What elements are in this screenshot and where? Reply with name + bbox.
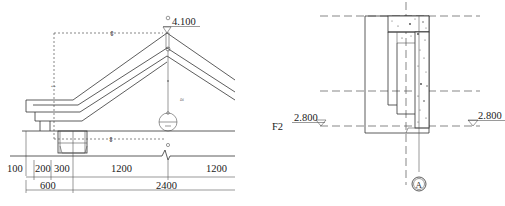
roof-outer-line — [26, 33, 235, 100]
dim-300: 300 — [54, 163, 70, 174]
dim-600: 600 — [40, 180, 56, 191]
light-fixture-icon — [159, 113, 177, 131]
dim-200: 200 — [35, 163, 51, 174]
dim-marker-top: ⇕ — [109, 30, 115, 38]
right-elevation-marker: 2.800 — [468, 110, 505, 126]
dim-marker-bottom: ⇕ — [108, 136, 114, 144]
roof-section-detail: 4.100 ⇕ ⇔ ≈ — [7, 16, 235, 193]
ground-line — [10, 150, 235, 160]
dim-1200-a: 1200 — [111, 163, 132, 174]
floor-label: F2 — [272, 121, 283, 132]
elevation-triangle-icon — [468, 120, 478, 126]
ridge-elevation-marker: 4.100 — [163, 16, 200, 33]
inner-panel-1 — [388, 32, 397, 105]
left-elevation-label: 2.800 — [294, 112, 318, 123]
drawing-canvas: 4.100 ⇕ ⇔ ≈ — [0, 0, 505, 206]
concrete-beam — [388, 16, 429, 32]
dim-marker-mid: ⇔ — [50, 82, 57, 90]
break-origin-icon — [166, 143, 169, 146]
left-elevation-marker: 2.800 — [292, 112, 326, 126]
right-elevation-label: 2.800 — [478, 110, 502, 121]
wall-section-detail: F2 2.800 2.800 A — [272, 2, 505, 191]
elevation-origin-icon — [166, 16, 170, 20]
axis-bubble: A — [412, 177, 426, 191]
ridge-elevation-label: 4.100 — [172, 16, 196, 27]
floor-step — [406, 128, 429, 133]
dim-100: 100 — [7, 163, 23, 174]
rod-annotation: ≈ — [180, 96, 184, 104]
concrete-column — [415, 32, 429, 128]
elevation-triangle-icon — [163, 27, 171, 33]
axis-label: A — [416, 180, 423, 190]
ridge-post — [166, 33, 169, 48]
dim-2400: 2400 — [156, 180, 177, 191]
dimension-row-2: 600 2400 — [40, 180, 177, 191]
dim-1200-b: 1200 — [206, 163, 227, 174]
